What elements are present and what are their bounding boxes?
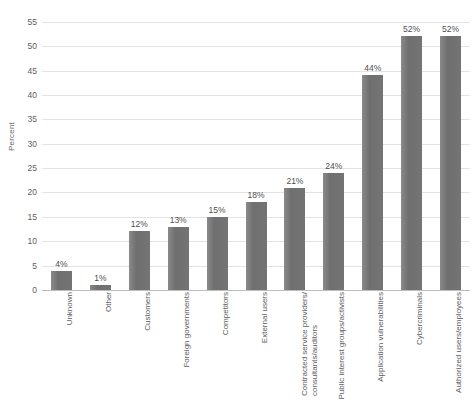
y-axis-title: Percent — [7, 102, 16, 172]
x-axis-label: Foreign governments — [182, 292, 192, 368]
x-axis-label-line: Application vulnerabilities — [376, 292, 385, 382]
bar: 15% — [207, 217, 228, 290]
bar: 21% — [284, 188, 305, 290]
cropped-top-artifact — [2, 0, 4, 6]
x-axis-label: Contracted service providers/consultants… — [300, 292, 319, 396]
x-axis-label-line: Unknown — [65, 292, 74, 325]
y-axis-tick-label: 25 — [28, 163, 37, 173]
plot-area: 05101520253035404550554%1%12%13%15%18%21… — [42, 12, 470, 290]
x-axis-label-line: Contracted service providers/ — [300, 292, 309, 396]
gridline: 55 — [42, 22, 470, 23]
bar: 4% — [51, 271, 72, 291]
bar-value-label: 44% — [364, 63, 381, 73]
y-axis-tick-label: 35 — [28, 114, 37, 124]
bar: 44% — [362, 75, 383, 290]
bar: 52% — [401, 36, 422, 290]
x-axis-label-line: Other — [104, 292, 113, 312]
bar-value-label: 13% — [170, 215, 187, 225]
y-axis-tick-label: 45 — [28, 66, 37, 76]
bar: 52% — [440, 36, 461, 290]
bar: 12% — [129, 231, 150, 290]
bar-chart: Percent 05101520253035404550554%1%12%13%… — [0, 0, 473, 418]
x-axis-label-line: Customers — [143, 292, 152, 331]
x-axis-label: External users — [260, 292, 270, 343]
y-axis-tick-label: 20 — [28, 187, 37, 197]
bar: 13% — [168, 227, 189, 290]
x-axis-label: Unknown — [65, 292, 75, 325]
bar-value-label: 24% — [325, 161, 342, 171]
y-axis-tick-label: 55 — [28, 17, 37, 27]
x-axis-label-line: Cybercriminals — [415, 292, 424, 345]
x-axis-label-line: Public interest groups/activists — [337, 292, 346, 400]
x-axis-label: Public interest groups/activists — [337, 292, 347, 400]
y-axis-tick-label: 10 — [28, 236, 37, 246]
x-axis-labels: UnknownOtherCustomersForeign governments… — [42, 292, 470, 418]
x-axis-label: Application vulnerabilities — [376, 292, 386, 382]
y-axis-tick-label: 40 — [28, 90, 37, 100]
y-axis-tick-label: 5 — [32, 261, 37, 271]
x-axis-label: Competitors — [221, 292, 231, 335]
bar: 18% — [246, 202, 267, 290]
x-axis-label-line: Competitors — [221, 292, 230, 335]
x-axis-label: Cybercriminals — [415, 292, 425, 345]
x-axis-label: Authorized users/employees — [454, 292, 464, 393]
bar-value-label: 52% — [403, 24, 420, 34]
x-axis-label-line: Foreign governments — [182, 292, 191, 368]
y-axis-tick-label: 0 — [32, 285, 37, 295]
bar-value-label: 21% — [286, 176, 303, 186]
x-axis-label: Other — [104, 292, 114, 312]
x-axis-label-line: consultants/auditors — [309, 292, 319, 396]
x-axis-label: Customers — [143, 292, 153, 331]
bar-value-label: 1% — [94, 273, 106, 283]
x-axis-label-line: Authorized users/employees — [454, 292, 463, 393]
bar-value-label: 18% — [247, 190, 264, 200]
bar-value-label: 4% — [55, 259, 67, 269]
x-axis-label-line: External users — [260, 292, 269, 343]
axis-baseline: 0 — [42, 290, 470, 291]
y-axis-tick-label: 30 — [28, 139, 37, 149]
bar-value-label: 15% — [209, 205, 226, 215]
y-axis-tick-label: 15 — [28, 212, 37, 222]
y-axis-tick-label: 50 — [28, 41, 37, 51]
bar-value-label: 12% — [131, 219, 148, 229]
bar: 24% — [323, 173, 344, 290]
bar: 1% — [90, 285, 111, 290]
bar-value-label: 52% — [442, 24, 459, 34]
